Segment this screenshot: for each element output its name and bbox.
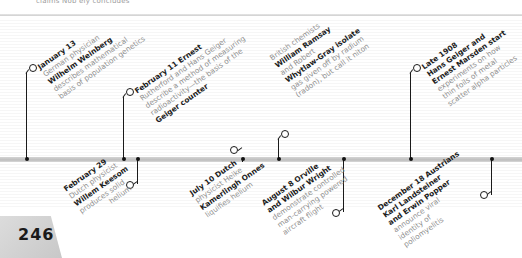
timeline-dot: [490, 157, 494, 161]
event-ring-icon: [281, 130, 289, 138]
timeline-dot: [25, 157, 29, 161]
event-ring-icon: [230, 146, 238, 154]
timeline-stem: [26, 73, 27, 159]
event-ring-icon: [332, 209, 340, 217]
event-ring-icon: [413, 64, 421, 72]
timeline-dot: [409, 157, 413, 161]
timeline-stem: [410, 73, 411, 159]
timeline-stem: [137, 159, 138, 184]
timeline-dot: [342, 157, 346, 161]
event-ring-icon: [29, 64, 37, 72]
timeline-dot: [136, 157, 140, 161]
timeline-stem: [123, 97, 124, 159]
header-cut-text: claims Nob ely concludes: [36, 0, 130, 5]
event-ring-icon: [126, 88, 134, 96]
timeline-stem: [278, 139, 279, 159]
page-number: 246: [18, 225, 54, 244]
timeline-dot: [277, 157, 281, 161]
header-divider: [0, 14, 522, 16]
timeline-stem: [491, 159, 492, 195]
